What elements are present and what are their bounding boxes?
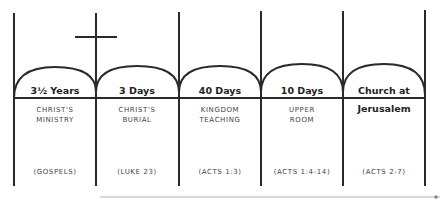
duration-label: 10 Days <box>261 85 343 96</box>
event-label: CHRIST'S BURIAL <box>96 105 178 125</box>
scripture-reference: (ACTS 1:3) <box>179 168 261 176</box>
event-label-line2: ROOM <box>261 115 343 125</box>
event-label: UPPER ROOM <box>261 105 343 125</box>
event-label: CHRIST'S MINISTRY <box>14 105 96 125</box>
event-label-line2: TEACHING <box>179 115 261 125</box>
event-label: Jerusalem <box>343 104 425 114</box>
duration-label: Church at <box>343 85 425 96</box>
event-label-line1: Jerusalem <box>343 104 425 114</box>
duration-label: 3 Days <box>96 85 178 96</box>
duration-label: 3½ Years <box>14 85 96 96</box>
scripture-reference: (GOSPELS) <box>14 168 96 176</box>
event-label-line1: UPPER <box>261 105 343 115</box>
scripture-reference: (LUKE 23) <box>96 168 178 176</box>
event-label-line2: BURIAL <box>96 115 178 125</box>
event-label-line2: MINISTRY <box>14 115 96 125</box>
event-label: KINGDOM TEACHING <box>179 105 261 125</box>
duration-label: 40 Days <box>179 85 261 96</box>
event-label-line1: CHRIST'S <box>96 105 178 115</box>
footer-dot <box>434 195 438 199</box>
scripture-reference: (ACTS 1:4-14) <box>261 168 343 176</box>
event-label-line1: KINGDOM <box>179 105 261 115</box>
scripture-reference: (ACTS 2-7) <box>343 168 425 176</box>
event-label-line1: CHRIST'S <box>14 105 96 115</box>
